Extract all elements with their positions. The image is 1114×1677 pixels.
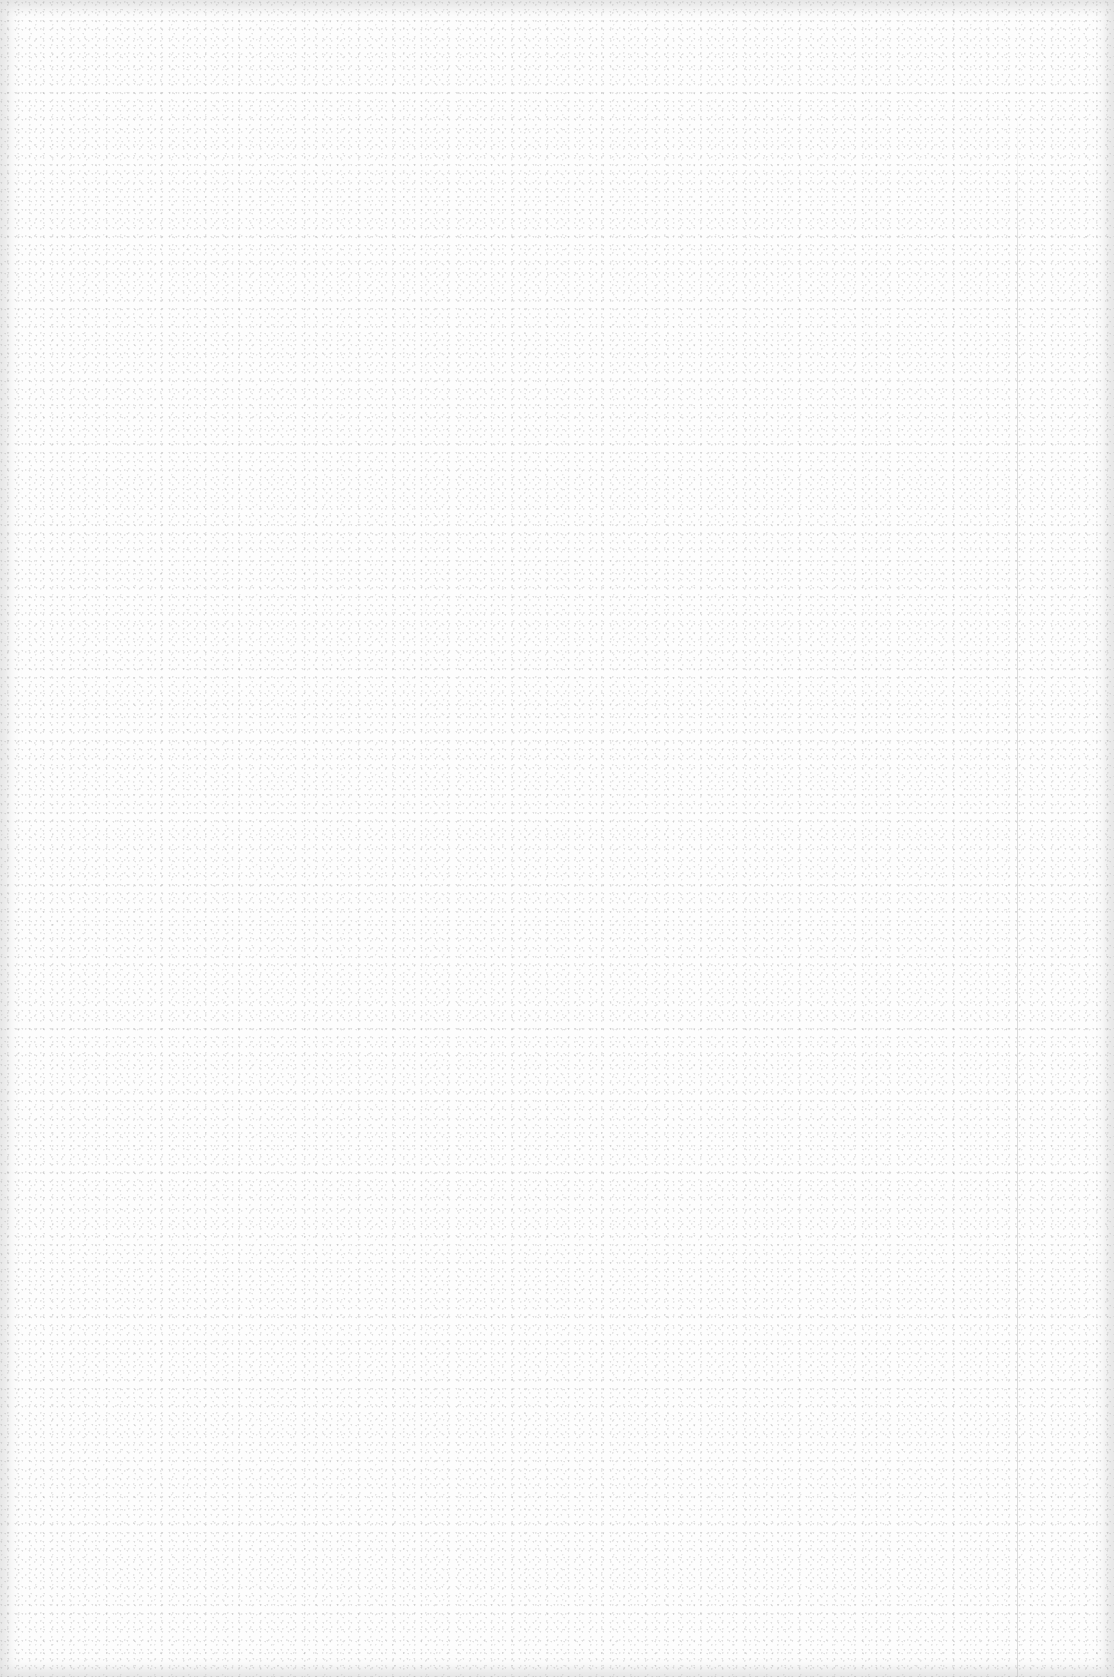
blank-document-page — [0, 0, 1114, 1677]
paper-texture — [0, 0, 1114, 1677]
vertical-margin-line — [1017, 110, 1018, 1677]
